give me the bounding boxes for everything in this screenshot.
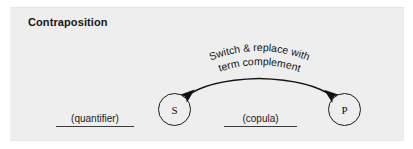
figure-title: Contraposition bbox=[28, 16, 108, 28]
slot-copula-rule bbox=[224, 126, 297, 127]
slot-quantifier: (quantifier) bbox=[56, 113, 134, 127]
contraposition-figure: Contraposition Switch & replace with ter… bbox=[0, 0, 413, 149]
node-subject: S bbox=[158, 93, 191, 126]
slot-quantifier-rule bbox=[56, 126, 134, 127]
node-predicate-label: P bbox=[329, 94, 360, 125]
slot-copula-label: (copula) bbox=[224, 113, 297, 124]
node-predicate: P bbox=[328, 93, 361, 126]
node-subject-label: S bbox=[159, 94, 190, 125]
slot-copula: (copula) bbox=[224, 113, 297, 127]
slot-quantifier-label: (quantifier) bbox=[56, 113, 134, 124]
